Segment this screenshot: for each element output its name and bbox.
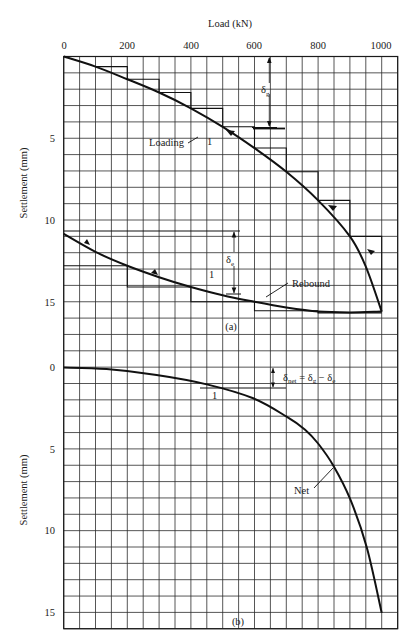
x-axis-title: Load (kN) — [208, 18, 253, 30]
y-tick-b-5: 5 — [50, 444, 55, 455]
x-tick-400: 400 — [183, 40, 199, 51]
arrow-up-icon — [267, 57, 272, 63]
delta-e-label: δe — [226, 254, 234, 268]
y-axis-title-b: Settlement (mm) — [18, 454, 30, 525]
arrow-down-icon — [267, 121, 272, 127]
slope-one-b: 1 — [212, 390, 217, 401]
arrow-up-icon — [232, 232, 237, 238]
arrow-down-icon — [232, 288, 237, 294]
x-tick-0: 0 — [61, 40, 66, 51]
net-leader — [314, 468, 333, 488]
arrow-down-icon — [271, 383, 275, 388]
panel-a-label: (a) — [225, 321, 237, 333]
plot-frame — [64, 57, 398, 629]
x-tick-1000: 1000 — [371, 40, 392, 51]
delta-g-annotation: δg — [252, 57, 285, 129]
load-settlement-figure: Load (kN) 0 200 400 600 800 1000 5 10 15… — [0, 0, 417, 642]
y-tick-b-0: 0 — [50, 362, 55, 373]
y-tick-labels-b: 0 5 10 15 — [45, 362, 56, 618]
plot-grid — [64, 57, 398, 629]
x-tick-200: 200 — [119, 40, 135, 51]
delta-e-annotation: δe — [64, 231, 241, 294]
panel-b-label: (b) — [232, 616, 245, 628]
slope-one-a1: 1 — [207, 136, 212, 147]
arrow-up-icon — [271, 368, 275, 373]
arrow-down-icon — [328, 205, 337, 211]
y-tick-labels-a: 5 10 15 — [45, 133, 56, 308]
delta-g-label: δg — [261, 84, 270, 98]
y-tick-a-10: 10 — [45, 215, 56, 226]
net-label: Net — [294, 485, 309, 496]
slope-one-a2: 1 — [209, 269, 214, 280]
y-tick-a-15: 15 — [45, 297, 56, 308]
rebound-label: Rebound — [292, 278, 331, 289]
y-tick-b-10: 10 — [45, 525, 56, 536]
loading-label: Loading — [149, 137, 185, 148]
y-axis-title-a: Settlement (mm) — [18, 147, 30, 218]
x-tick-labels: 0 200 400 600 800 1000 — [61, 40, 391, 51]
y-tick-b-15: 15 — [45, 607, 56, 618]
arrow-up-icon — [84, 239, 90, 245]
arrow-down-icon — [367, 249, 375, 255]
delta-net-annotation: δnet = δg − δe — [200, 368, 335, 388]
y-tick-a-5: 5 — [50, 133, 55, 144]
x-tick-600: 600 — [246, 40, 262, 51]
x-tick-800: 800 — [310, 40, 326, 51]
net-equation-label: δnet = δg − δe — [283, 372, 335, 385]
